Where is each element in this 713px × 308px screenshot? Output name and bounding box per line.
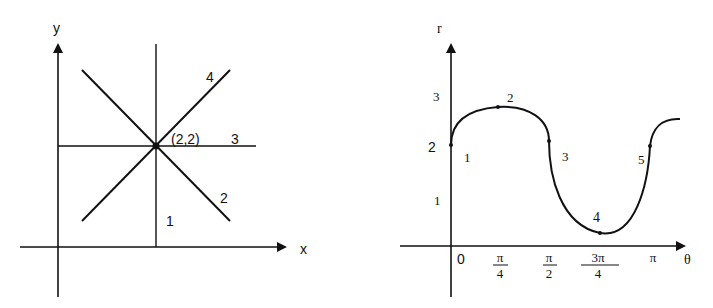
figure: y x (2,2) 1 2 3 4 r θ 3 2 1 0 π 4 <box>0 0 713 308</box>
curve-point-3 <box>547 139 551 143</box>
tick-denominator: 4 <box>595 266 602 281</box>
line-2-label: 2 <box>220 190 228 206</box>
point-label-1: 1 <box>464 150 471 165</box>
tick-numerator: 3π <box>591 250 605 265</box>
intersection-label: (2,2) <box>171 131 200 147</box>
point-label-5: 5 <box>638 152 645 167</box>
point-label-3: 3 <box>562 149 569 164</box>
curve-point-1 <box>449 143 453 147</box>
theta-tick-pi-over-4: π 4 <box>493 250 508 281</box>
line-1-label: 1 <box>166 213 174 229</box>
theta-axis-label: θ <box>684 252 691 267</box>
r-tick-3: 3 <box>433 89 440 104</box>
point-label-4: 4 <box>593 210 600 225</box>
right-polar-graph: r θ 3 2 1 0 π 4 π 2 3π 4 π 1 2 3 4 5 <box>400 21 691 297</box>
r-tick-2: 2 <box>428 139 436 155</box>
left-x-axis-label: x <box>300 241 307 257</box>
tick-denominator: 4 <box>497 266 504 281</box>
line-4-label: 4 <box>206 69 214 85</box>
theta-tick-pi-over-2: π 2 <box>543 250 557 281</box>
r-theta-curve <box>451 107 680 234</box>
line-3-label: 3 <box>231 131 239 147</box>
theta-tick-0: 0 <box>457 251 465 267</box>
r-tick-1: 1 <box>434 193 441 208</box>
left-y-axis-label: y <box>53 20 60 36</box>
left-cartesian-diagram: y x (2,2) 1 2 3 4 <box>20 20 307 297</box>
theta-tick-3pi-over-4: 3π 4 <box>581 250 619 281</box>
tick-denominator: 2 <box>546 266 553 281</box>
tick-numerator: π <box>497 250 504 265</box>
r-axis-label: r <box>437 21 442 36</box>
tick-numerator: π <box>546 250 553 265</box>
curve-point-4 <box>598 231 602 235</box>
point-label-2: 2 <box>507 90 514 105</box>
curve-point-2 <box>496 105 500 109</box>
curve-point-5 <box>648 144 652 148</box>
theta-tick-pi: π <box>650 250 657 265</box>
intersection-point <box>153 143 160 150</box>
